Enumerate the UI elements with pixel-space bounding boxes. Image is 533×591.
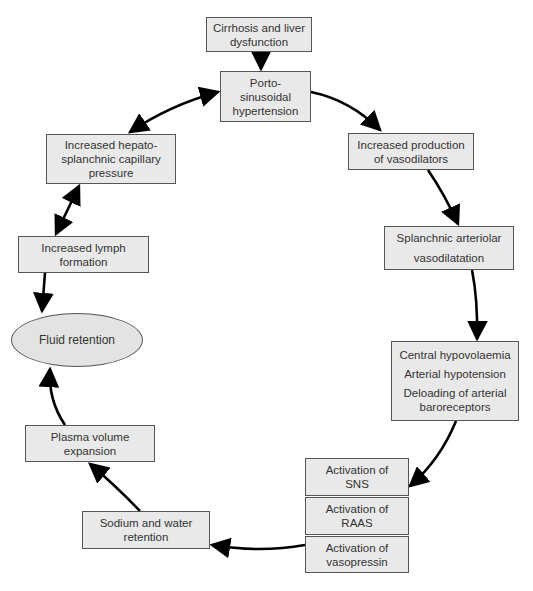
node-text: sinusoidal <box>240 90 291 104</box>
node-text: Central hypovolaemia <box>399 348 510 362</box>
node-activation-raas: Activation of RAAS <box>305 497 409 535</box>
node-text: vasopressin <box>326 555 387 569</box>
node-fluid-retention: Fluid retention <box>11 313 143 367</box>
node-text: Arterial hypotension <box>404 367 506 381</box>
node-vasodilators: Increased production of vasodilators <box>348 133 474 170</box>
arrow-porto-vasodilators <box>311 92 380 130</box>
node-text: dysfunction <box>230 35 288 49</box>
node-text: Porto- <box>250 76 281 90</box>
node-text: splanchnic capillary <box>61 152 161 166</box>
node-text: Plasma volume <box>51 430 130 444</box>
arrow-sodium-plasma <box>90 464 140 511</box>
node-plasma-volume-expansion: Plasma volume expansion <box>25 425 155 462</box>
arrow-lymph-fluid <box>42 273 45 311</box>
node-text: expansion <box>64 444 116 458</box>
node-sodium-water-retention: Sodium and water retention <box>82 511 210 549</box>
node-text: Activation of <box>326 463 389 477</box>
node-text: Splanchnic arteriolar <box>397 228 502 248</box>
node-increased-lymph-formation: Increased lymph formation <box>18 236 149 273</box>
node-text: Cirrhosis and liver <box>213 21 305 35</box>
node-text: Activation of <box>326 502 389 516</box>
arrow-plasma-fluid <box>50 369 65 425</box>
node-text: of vasodilators <box>374 152 448 166</box>
node-text: Sodium and water <box>100 516 193 530</box>
arrow-vasopressin-sodium <box>212 545 305 549</box>
node-splanchnic-vasodilatation: Splanchnic arteriolar vasodilatation <box>384 226 514 270</box>
node-cirrhosis: Cirrhosis and liver dysfunction <box>206 17 312 52</box>
node-porto-sinusoidal-hypertension: Porto- sinusoidal hypertension <box>220 71 311 122</box>
node-text: Deloading of arterial <box>404 386 507 400</box>
node-text: RAAS <box>341 516 372 530</box>
node-text: Increased lymph <box>41 241 125 255</box>
node-text: Fluid retention <box>39 333 115 347</box>
node-text: pressure <box>89 166 134 180</box>
node-text: retention <box>124 530 169 544</box>
arrow-hepato-lymph <box>56 186 79 234</box>
node-hepato-splanchnic-pressure: Increased hepato- splanchnic capillary p… <box>46 134 176 184</box>
node-central-hypovolaemia: Central hypovolaemia Arterial hypotensio… <box>391 341 519 421</box>
node-text: vasodilatation <box>414 248 484 268</box>
node-text: SNS <box>345 477 369 491</box>
node-activation-sns: Activation of SNS <box>305 458 409 496</box>
arrow-vasodilators-splanchnic <box>428 170 458 224</box>
node-activation-vasopressin: Activation of vasopressin <box>305 536 409 573</box>
node-text: hypertension <box>233 104 299 118</box>
arrow-central-sns <box>410 421 456 486</box>
node-text: Activation of <box>326 541 389 555</box>
arrow-porto-hepato <box>130 92 218 132</box>
node-text: Increased production <box>357 138 464 152</box>
arrow-splanchnic-central <box>472 270 477 339</box>
node-text: Increased hepato- <box>65 138 158 152</box>
node-text: formation <box>60 255 108 269</box>
node-text: baroreceptors <box>420 400 491 414</box>
